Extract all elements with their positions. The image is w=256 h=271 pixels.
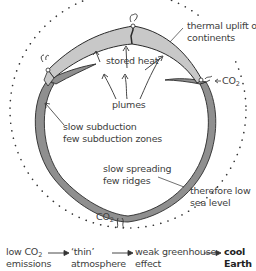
label-co2-bottom: CO2 bbox=[96, 211, 114, 223]
flow-step-low-co2-emissions: low CO2 emissions bbox=[6, 246, 51, 269]
label-co2-right: CO2 bbox=[222, 75, 240, 87]
flow-step-weak-greenhouse: weak greenhouse effect bbox=[135, 246, 216, 269]
volcanic-gas-right-icon bbox=[205, 76, 212, 82]
label-plumes: plumes bbox=[112, 99, 146, 111]
label-slow-spreading: slow spreading few ridges bbox=[103, 163, 171, 186]
label-low-sea-level: therefore low sea level bbox=[190, 185, 250, 208]
label-slow-subduction: slow subduction few subduction zones bbox=[63, 121, 162, 144]
label-stored-heat: stored heat bbox=[106, 55, 158, 67]
volcanic-gas-top-icon bbox=[130, 14, 137, 22]
volcanic-gas-left-icon bbox=[41, 55, 49, 62]
flow-step-thin-atmosphere: ‘thin’ atmosphere bbox=[71, 246, 126, 269]
label-thermal-uplift: thermal uplift of continents bbox=[187, 20, 256, 43]
co2-right-arrow-icon bbox=[215, 79, 221, 83]
flow-step-cool-earth: cool Earth bbox=[224, 246, 252, 269]
